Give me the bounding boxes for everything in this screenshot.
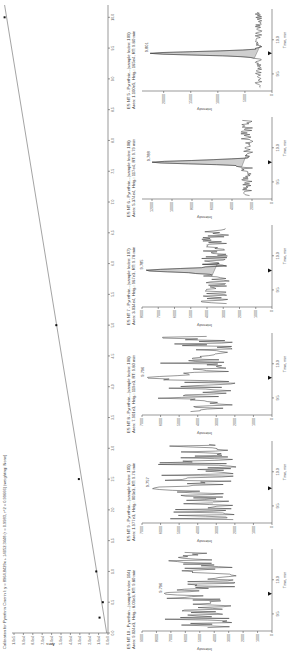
calibration-y-tick: 2.0e4 xyxy=(88,636,92,645)
chromatogram-plot: 0100020003000400050006000700080009.510.0… xyxy=(122,221,298,329)
chromatogram-panel: ES NT 7 - Pyrethrin...(sample Index: 107… xyxy=(122,221,298,329)
peak-label: 9.796 xyxy=(158,582,163,593)
peak-label: 9.788 xyxy=(146,150,151,161)
panel-x-tick: 10.0 xyxy=(276,252,280,259)
panel-x-tick: 10.0 xyxy=(276,36,280,43)
panel-y-tick: 8000 xyxy=(155,634,159,642)
chromatogram-trace xyxy=(150,12,262,87)
rt-marker-icon xyxy=(268,592,272,596)
panel-x-tick: 10.0 xyxy=(276,144,280,151)
calibration-x-tick: 10.0 xyxy=(111,14,115,21)
panel-y-tick: 8000 xyxy=(190,202,194,210)
panel-y-tick: 1000 xyxy=(252,526,256,534)
calibration-x-tick: 2.5 xyxy=(111,477,115,482)
peak-label: 9.785 xyxy=(139,259,144,270)
peak-area xyxy=(146,263,226,276)
panel-y-tick: 7000 xyxy=(169,634,173,642)
panel-y-tick: 0 xyxy=(270,202,274,204)
chromatogram-panel: ES NT 9 - Pyrethrin...(sample Index: 105… xyxy=(122,437,298,545)
panel-x-tick: 9.5 xyxy=(276,503,280,508)
calibration-y-tick: 1.0e5 xyxy=(12,636,16,645)
calibration-y-tick: 6.0e4 xyxy=(50,636,54,645)
panel-y-tick: 9000 xyxy=(140,634,144,642)
panel-y-tick: 3000 xyxy=(215,526,219,534)
chromatogram-panel: ES NT 10 - Pyrethrin...(sample Index: 10… xyxy=(122,545,298,653)
rt-marker-icon xyxy=(268,268,272,272)
calibration-y-tick: 7.0e4 xyxy=(41,636,45,645)
calibration-point xyxy=(55,324,57,326)
panel-xlabel: Time, min xyxy=(283,140,287,157)
panel-y-tick: 10000 xyxy=(216,94,220,104)
chromatogram-plot: 010002000300040005000600070009.510.0Time… xyxy=(122,329,298,437)
panel-x-tick: 9.5 xyxy=(276,179,280,184)
panel-y-tick: 3000 xyxy=(227,634,231,642)
calibration-x-tick: 9.5 xyxy=(111,46,115,51)
panel-y-tick: 6000 xyxy=(173,310,177,318)
peak-area xyxy=(150,46,262,59)
panel-xlabel: Time, min xyxy=(283,248,287,265)
calibration-point xyxy=(78,478,80,480)
calibration-x-tick: 2.0 xyxy=(111,507,115,512)
panel-xlabel: Time, min xyxy=(283,356,287,373)
panel-y-tick: 5000 xyxy=(189,310,193,318)
calibration-x-tick: 1.5 xyxy=(111,538,115,543)
calibration-x-tick: 6.5 xyxy=(111,230,115,235)
calibration-point xyxy=(4,16,6,18)
panel-y-tick: 0 xyxy=(270,94,274,96)
panel-xlabel: Time, min xyxy=(283,464,287,481)
panel-x-tick: 9.5 xyxy=(276,287,280,292)
calibration-y-tick: 0.0e0 xyxy=(106,636,110,645)
calibration-x-tick: 4.5 xyxy=(111,353,115,358)
panel-y-tick: 2000 xyxy=(250,202,254,210)
calibration-point xyxy=(95,570,97,572)
panel-x-tick: 9.5 xyxy=(276,611,280,616)
panel-y-tick: 5000 xyxy=(177,526,181,534)
calibration-plot: 0.0e01.0e42.0e43.0e44.0e45.0e46.0e47.0e4… xyxy=(0,0,120,655)
panel-y-tick: 20000 xyxy=(162,94,166,104)
calibration-y-tick: 9.0e4 xyxy=(22,636,26,645)
panel-y-tick: 4000 xyxy=(196,526,200,534)
panel-x-tick: 10.0 xyxy=(276,576,280,583)
panel-xlabel: Time, min xyxy=(283,572,287,589)
panel-y-tick: 15000 xyxy=(189,94,193,104)
chromatogram-panel: ES NT 8 - Pyrethrin...(sample Index: 106… xyxy=(122,329,298,437)
panel-y-tick: 2000 xyxy=(233,418,237,426)
panel-y-tick: 0 xyxy=(270,634,274,636)
chromatogram-panel: ES NT 6 - Pyrethrin...(sample Index: 108… xyxy=(122,113,298,221)
panel-y-tick: 6000 xyxy=(159,526,163,534)
panel-y-tick: 4000 xyxy=(213,634,217,642)
panel-x-tick: 10.0 xyxy=(276,468,280,475)
calibration-y-tick: 1.0e4 xyxy=(97,636,101,645)
rt-marker-icon xyxy=(268,51,272,55)
chromatogram-plot: 01000200030004000500060007000800090009.5… xyxy=(122,545,298,653)
calibration-x-tick: 5.0 xyxy=(111,323,115,328)
calibration-y-tick: 4.0e4 xyxy=(69,636,73,645)
panel-y-tick: 7000 xyxy=(157,310,161,318)
chromatogram-plot: 050001000015000200009.510.0Time, min9.80… xyxy=(122,5,298,113)
chromatogram-trace xyxy=(152,120,253,195)
chromatogram-panel: ES NT 5 - Pyrethrin...(sample Index: 109… xyxy=(122,5,298,113)
panel-y-tick: 3000 xyxy=(222,310,226,318)
calibration-x-tick: 0.5 xyxy=(111,600,115,605)
calibration-x-tick: 3.5 xyxy=(111,415,115,420)
calibration-fit-line xyxy=(5,5,107,633)
panel-x-tick: 9.5 xyxy=(276,395,280,400)
panel-y-tick: 2000 xyxy=(233,526,237,534)
peak-label: 9.796 xyxy=(140,366,145,377)
calibration-x-tick: 3.0 xyxy=(111,446,115,451)
calibration-y-tick: 8.0e4 xyxy=(31,636,35,645)
calibration-x-tick: 7.0 xyxy=(111,200,115,205)
panel-y-tick: 4000 xyxy=(196,418,200,426)
panel-y-tick: 4000 xyxy=(230,202,234,210)
calibration-y-tick: 5.0e4 xyxy=(59,636,63,645)
panel-y-tick: 4000 xyxy=(205,310,209,318)
chromatogram-plot: 0200040006000800010000120009.510.0Time, … xyxy=(122,113,298,221)
peak-label: 9.801 xyxy=(144,42,149,53)
peak-label: 9.757 xyxy=(145,477,150,488)
panel-y-tick: 2000 xyxy=(241,634,245,642)
calibration-y-tick: 3.0e4 xyxy=(78,636,82,645)
panel-y-tick: 6000 xyxy=(184,634,188,642)
chromatogram-plot: 010002000300040005000600070009.510.0Time… xyxy=(122,437,298,545)
rotated-figure: Calibration for Pyrethrin Cinerin I: y =… xyxy=(0,0,298,655)
panel-y-tick: 10000 xyxy=(170,202,174,212)
